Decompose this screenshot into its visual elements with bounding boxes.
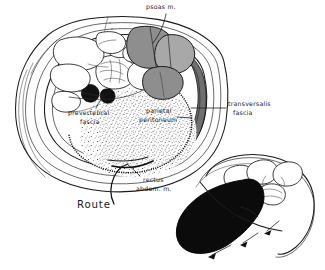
anatomical-figure: psoas m. transversalis fascia prevertebr… xyxy=(0,0,325,270)
label-parietal-line1: parietal xyxy=(146,107,172,115)
label-psoas: psoas m. xyxy=(146,3,176,11)
arrow-2-shaft xyxy=(243,233,258,243)
left-flank-fold-a xyxy=(23,63,50,173)
main-section xyxy=(16,17,228,192)
quadratus-lumborum xyxy=(143,66,184,99)
label-parietal-line2: peritoneum xyxy=(139,116,177,124)
inset-loop-c xyxy=(273,162,302,186)
label-transversalis-line2: fascia xyxy=(233,109,253,116)
extravasated-mass xyxy=(176,179,264,253)
label-route: Route xyxy=(77,199,111,210)
arrow-3-head xyxy=(208,253,216,260)
label-prevertebral-line2: fascia xyxy=(80,118,100,125)
figure-canvas: psoas m. transversalis fascia prevertebr… xyxy=(0,0,325,270)
bowel-loop-upper-mid xyxy=(96,32,126,54)
label-rectus-line1: rectus xyxy=(143,176,164,183)
label-prevertebral-line1: prevertebral xyxy=(68,109,109,117)
left-flank-fold-b xyxy=(19,70,45,177)
label-transversalis-line1: transversalis xyxy=(228,100,271,107)
label-rectus-line2: abdom. m. xyxy=(136,185,172,192)
bowel-loop-mid-left xyxy=(50,64,90,92)
